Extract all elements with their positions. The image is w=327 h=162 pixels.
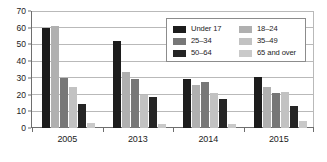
legend-swatch	[239, 50, 252, 57]
legend-swatch	[239, 26, 252, 33]
bar-group	[42, 11, 96, 128]
legend-label: 65 and over	[257, 49, 296, 57]
bar	[263, 87, 271, 128]
x-axis-tick-mark	[103, 128, 104, 132]
y-axis-tick-label: 60	[0, 23, 26, 32]
legend-item: Under 17	[173, 23, 234, 35]
x-axis-tick-label: 2015	[244, 135, 315, 144]
legend-label: 18–24	[257, 25, 278, 33]
bar	[122, 72, 130, 128]
bar	[113, 41, 121, 128]
legend-item: 65 and over	[239, 47, 300, 59]
y-axis-tick-label: 50	[0, 40, 26, 49]
legend-item: 18–24	[239, 23, 300, 35]
bar	[201, 82, 209, 128]
x-axis-tick-mark	[32, 128, 33, 132]
bar	[299, 121, 307, 128]
legend-label: 50–64	[191, 49, 212, 57]
legend-swatch	[239, 38, 252, 45]
y-axis-tick-label: 0	[0, 124, 26, 133]
y-axis-tick-label: 10	[0, 107, 26, 116]
bar	[272, 93, 280, 128]
bar	[42, 28, 50, 128]
y-axis-tick-label: 20	[0, 90, 26, 99]
legend-label: Under 17	[191, 25, 221, 33]
legend-label: 25–34	[191, 37, 212, 45]
legend-swatch	[173, 50, 186, 57]
x-axis-tick-label: 2013	[103, 135, 174, 144]
bar	[254, 77, 262, 128]
x-axis-tick-label: 2005	[32, 135, 103, 144]
legend-swatch	[173, 38, 186, 45]
bar-group	[113, 11, 167, 128]
bar	[183, 79, 191, 128]
x-axis: 2005201320142015	[32, 128, 314, 150]
x-axis-tick-mark	[244, 128, 245, 132]
bar	[210, 93, 218, 128]
bar	[219, 99, 227, 128]
bar	[192, 85, 200, 128]
bar	[60, 78, 68, 128]
y-axis-tick-label: 40	[0, 57, 26, 66]
bar	[149, 97, 157, 128]
bar-chart: 010203040506070 2005201320142015 Under 1…	[0, 0, 327, 162]
x-axis-tick-label: 2014	[173, 135, 244, 144]
chart-legend: Under 1718–2425–3435–4950–6465 and over	[166, 18, 306, 62]
bar	[281, 92, 289, 128]
bar	[290, 106, 298, 128]
legend-label: 35–49	[257, 37, 278, 45]
bar	[78, 104, 86, 128]
legend-swatch	[173, 26, 186, 33]
bar	[51, 26, 59, 128]
x-axis-tick-mark	[313, 128, 314, 132]
legend-item: 35–49	[239, 35, 300, 47]
bar	[69, 87, 77, 128]
y-axis-tick-label: 70	[0, 7, 26, 16]
x-axis-tick-mark	[173, 128, 174, 132]
bar	[140, 95, 148, 128]
y-axis-tick-label: 30	[0, 74, 26, 83]
legend-item: 50–64	[173, 47, 234, 59]
legend-item: 25–34	[173, 35, 234, 47]
bar	[131, 79, 139, 128]
